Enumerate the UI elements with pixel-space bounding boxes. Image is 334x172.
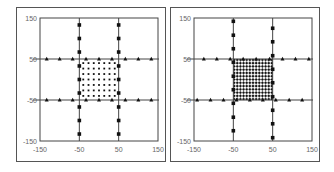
square-marker: [232, 19, 236, 23]
y-tick-label: 50: [183, 56, 191, 63]
square-marker: [117, 119, 121, 123]
interior-dot-grid: [233, 59, 273, 100]
square-marker: [232, 60, 236, 64]
square-marker: [117, 91, 121, 95]
square-marker: [232, 33, 236, 37]
square-marker: [117, 105, 121, 109]
y-tick-label: -150: [177, 138, 191, 145]
square-marker: [271, 54, 275, 58]
square-marker: [78, 50, 82, 54]
scatter-plot-right: 15050-50-150-150-5050150: [171, 8, 321, 163]
square-marker: [117, 132, 121, 136]
x-tick-label: 50: [269, 146, 277, 153]
chart-panel-left: 15050-50-150-150-5050150: [16, 7, 166, 162]
y-tick-label: 150: [179, 15, 191, 22]
square-marker: [78, 119, 82, 123]
square-marker: [232, 74, 236, 78]
chart-panel-right: 15050-50-150-150-5050150: [170, 7, 320, 162]
interior-dot-grid: [82, 62, 115, 97]
y-tick-label: -150: [23, 138, 37, 145]
x-tick-label: 50: [115, 146, 123, 153]
x-tick-label: 150: [152, 146, 164, 153]
square-marker: [271, 136, 275, 140]
square-marker: [78, 78, 82, 82]
square-marker: [78, 132, 82, 136]
square-marker: [117, 50, 121, 54]
square-marker: [271, 26, 275, 30]
x-tick-label: -150: [33, 146, 47, 153]
square-marker: [232, 47, 236, 51]
square-marker: [232, 88, 236, 92]
square-marker: [271, 81, 275, 85]
square-marker: [271, 122, 275, 126]
square-marker: [78, 91, 82, 95]
x-tick-label: 150: [306, 146, 318, 153]
square-marker: [271, 40, 275, 44]
square-marker: [78, 64, 82, 68]
square-marker: [232, 115, 236, 119]
square-marker: [271, 95, 275, 99]
square-marker: [117, 64, 121, 68]
y-tick-label: -50: [27, 97, 37, 104]
x-tick-label: -150: [187, 146, 201, 153]
x-tick-label: -50: [74, 146, 84, 153]
y-tick-label: -50: [181, 97, 191, 104]
square-marker: [117, 37, 121, 41]
square-marker: [232, 101, 236, 105]
square-marker: [117, 78, 121, 82]
y-tick-label: 50: [29, 56, 37, 63]
y-tick-label: 150: [25, 15, 37, 22]
square-marker: [78, 37, 82, 41]
scatter-plot-left: 15050-50-150-150-5050150: [17, 8, 167, 163]
square-marker: [117, 23, 121, 27]
square-marker: [271, 67, 275, 71]
square-marker: [232, 129, 236, 133]
square-marker: [78, 105, 82, 109]
square-marker: [78, 23, 82, 27]
x-tick-label: -50: [228, 146, 238, 153]
square-marker: [271, 108, 275, 112]
